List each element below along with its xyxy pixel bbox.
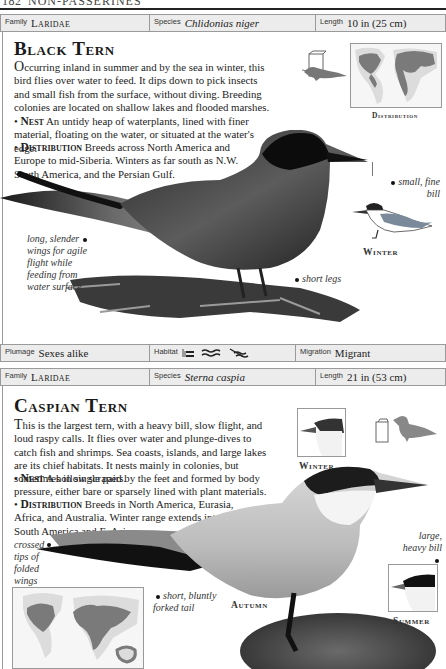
migration-cell: Migration Migrant: [296, 345, 445, 361]
distribution-map: [12, 587, 144, 669]
summer-caption: Summer: [393, 616, 430, 626]
habitat-icons: [182, 348, 254, 358]
species-label: Species: [154, 17, 181, 26]
family-label: Family: [5, 371, 27, 380]
bill-callout-text: large, heavy bill: [403, 530, 442, 553]
species-title: Black Tern: [14, 38, 115, 60]
habitat-label: Habitat: [154, 347, 178, 356]
distribution-map: [350, 43, 442, 108]
callout-dot: [391, 181, 395, 185]
callout-dot: [435, 559, 439, 563]
drop-cap: O: [14, 59, 24, 74]
bill-callout-text: small, fine bill: [398, 176, 440, 199]
family-cell: Family Laridae: [1, 15, 150, 31]
family-value: Laridae: [31, 371, 70, 383]
map-caption: Distribution: [372, 111, 418, 120]
species-label: Species: [154, 371, 181, 380]
length-cell: Length 10 in (25 cm): [316, 15, 445, 31]
migration-label: Migration: [300, 347, 331, 356]
plumage-value: Sexes alike: [39, 347, 89, 359]
callout-dot: [156, 595, 160, 599]
black-tern-bottom-info-bar: Plumage Sexes alike Habitat Migration Mi…: [0, 344, 446, 362]
wings-callout-dot: [80, 233, 90, 245]
autumn-caption: Autumn: [231, 600, 268, 610]
tail-callout: short, bluntly forked tail: [153, 590, 229, 614]
size-comparison-icon: [302, 50, 348, 98]
length-label: Length: [320, 17, 343, 26]
panel-border: [2, 386, 3, 669]
size-comparison-icon: [375, 414, 439, 450]
family-value: Laridae: [31, 17, 70, 29]
drop-cap: T: [14, 417, 23, 432]
plumage-label: Plumage: [5, 347, 35, 356]
legs-callout-text: short legs: [302, 273, 341, 284]
header-rule: [0, 8, 446, 10]
family-cell: Family Laridae: [1, 369, 150, 385]
wings-callout-dot: [44, 538, 54, 550]
caspian-tern-info-bar: Family Laridae Species Sterna caspia Len…: [0, 368, 446, 386]
summer-head-inset: [388, 564, 438, 612]
family-label: Family: [5, 17, 27, 26]
nest-label: Nest: [20, 115, 43, 127]
species-value: Sterna caspia: [185, 371, 245, 383]
bill-leader-line: [372, 162, 373, 176]
wings-callout: long, slender wings for agile flight whi…: [27, 233, 87, 293]
species-cell: Species Chlidonias niger: [150, 15, 316, 31]
migration-value: Migrant: [335, 347, 370, 359]
species-title: Caspian Tern: [14, 395, 128, 417]
plumage-cell: Plumage Sexes alike: [1, 345, 150, 361]
coast-icon: [230, 349, 248, 357]
bill-callout: large, heavy bill: [398, 530, 442, 566]
length-value: 10 in (25 cm): [347, 17, 407, 29]
page-header: 182 NON-PASSERINES: [0, 0, 446, 8]
species-value: Chlidonias niger: [185, 17, 259, 29]
callout-dot: [295, 278, 299, 282]
species-description: Occurring inland in summer and by the se…: [14, 60, 272, 114]
habitat-cell: Habitat: [150, 345, 296, 361]
winter-head-inset: [297, 408, 346, 457]
tail-callout-text: short, bluntly forked tail: [153, 590, 216, 613]
species-cell: Species Sterna caspia: [150, 369, 316, 385]
marsh-icon: [183, 349, 194, 357]
wings-callout-text: crossed tips of folded wings: [14, 539, 44, 586]
winter-plumage-illustration: [352, 200, 434, 242]
winter-caption: Winter: [363, 247, 398, 257]
length-cell: Length 21 in (53 cm): [316, 369, 445, 385]
wings-callout-text: long, slender wings for agile flight whi…: [27, 233, 87, 292]
length-value: 21 in (53 cm): [347, 371, 407, 383]
black-tern-info-bar: Family Laridae Species Chlidonias niger …: [0, 14, 446, 32]
legs-callout: short legs: [292, 273, 341, 285]
description-text: ccurring inland in summer and by the sea…: [14, 61, 269, 113]
open-water-icon: [202, 350, 220, 356]
length-label: Length: [320, 371, 343, 380]
bill-callout: small, fine bill: [380, 176, 440, 200]
